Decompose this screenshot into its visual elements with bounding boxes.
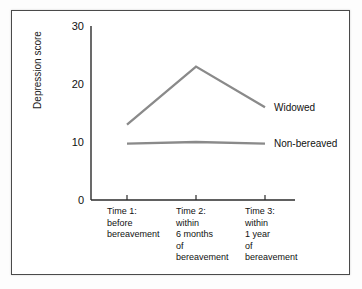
y-tick-label-30: 30 xyxy=(58,20,84,32)
series-label-widowed: Widowed xyxy=(274,102,315,113)
figure-frame: Depression score 30 20 10 0 Time 1: befo… xyxy=(11,10,350,275)
y-tick-label-0: 0 xyxy=(58,194,84,206)
series-line-widowed xyxy=(127,67,265,125)
figure-root: Depression score 30 20 10 0 Time 1: befo… xyxy=(0,0,362,289)
y-axis-label-text: Depression score xyxy=(32,31,43,109)
y-axis-label: Depression score xyxy=(27,15,41,125)
series-label-non-bereaved: Non-bereaved xyxy=(274,138,337,149)
chart-plot-area: Depression score 30 20 10 0 Time 1: befo… xyxy=(12,11,351,276)
x-tick-label-time3: Time 3: within 1 year of bereavement xyxy=(245,206,329,264)
y-tick-label-20: 20 xyxy=(58,78,84,90)
series-line-non-bereaved xyxy=(127,142,265,144)
y-tick-label-10: 10 xyxy=(58,136,84,148)
